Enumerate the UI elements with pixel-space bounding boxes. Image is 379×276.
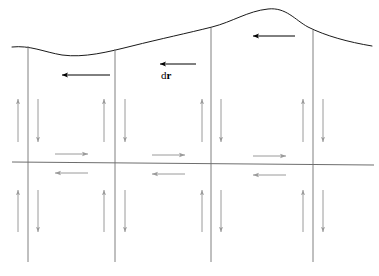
axis-arrows-left-group (55, 173, 286, 175)
horizontal-axis-line (12, 162, 374, 165)
dr-label-vector: r (167, 69, 172, 81)
axis-line-group (12, 162, 374, 165)
surface-curve-group (12, 9, 372, 56)
flux-arrows-down-group (38, 99, 323, 232)
diagram-canvas: dr (0, 0, 379, 276)
surface-curve (12, 9, 372, 56)
field-lines-group (28, 28, 313, 262)
displacement-arrows-group (62, 36, 295, 75)
axis-arrows-right-group (55, 154, 286, 156)
dr-label: dr (161, 70, 171, 81)
flux-arrows-up-group (18, 99, 303, 232)
diagram-svg (0, 0, 379, 276)
